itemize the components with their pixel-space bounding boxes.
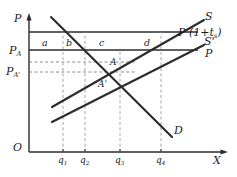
x-tick-label-q1-sub: 1 bbox=[64, 160, 68, 166]
demand-curve bbox=[51, 17, 172, 137]
price-label-p-a-prime: PA' bbox=[6, 66, 20, 79]
demand-curve-label: D bbox=[174, 125, 183, 136]
origin-label: O bbox=[13, 142, 22, 153]
price-label-p-a-prime-sub: A' bbox=[13, 71, 20, 79]
supply-prime-curve bbox=[52, 45, 204, 122]
price-with-tax-label-suffix: ) bbox=[217, 26, 221, 39]
point-label-a-prime: A' bbox=[98, 80, 107, 89]
x-tick-label-q4: q4 bbox=[156, 156, 165, 166]
horizontal-guides-group bbox=[29, 62, 135, 72]
x-tick-label-q1: q1 bbox=[58, 156, 67, 166]
x-axis-label: X bbox=[213, 155, 221, 166]
region-label-d: d bbox=[144, 38, 150, 48]
region-label-b: b bbox=[66, 38, 72, 48]
price-lines-group bbox=[29, 32, 198, 50]
price-with-tax-label: P (1+ts) bbox=[178, 27, 222, 40]
region-label-a: a bbox=[42, 38, 48, 48]
price-label-p-a-sub: A bbox=[16, 50, 21, 58]
region-label-c: c bbox=[99, 38, 104, 48]
price-with-tax-label-prefix: P (1+ bbox=[178, 26, 209, 39]
supply-curve-label: S bbox=[205, 11, 213, 22]
x-tick-label-q2: q2 bbox=[80, 156, 89, 166]
x-tick-label-q4-sub: 4 bbox=[162, 160, 166, 166]
x-tick-label-q3: q3 bbox=[115, 156, 124, 166]
demand-curve-group bbox=[51, 17, 172, 137]
world-price-label: P bbox=[205, 48, 212, 59]
x-tick-label-q2-sub: 2 bbox=[86, 160, 90, 166]
x-axis-arrowhead bbox=[221, 149, 229, 154]
tax-incidence-diagram: P X O PA PA' S S' D P (1+ts) P a b c d A… bbox=[0, 0, 237, 177]
price-label-p-a: PA bbox=[9, 45, 21, 58]
y-axis-arrowhead bbox=[26, 13, 31, 21]
x-tick-label-q3-sub: 3 bbox=[121, 160, 125, 166]
y-axis-label: P bbox=[14, 13, 21, 24]
point-label-a: A bbox=[110, 58, 117, 67]
